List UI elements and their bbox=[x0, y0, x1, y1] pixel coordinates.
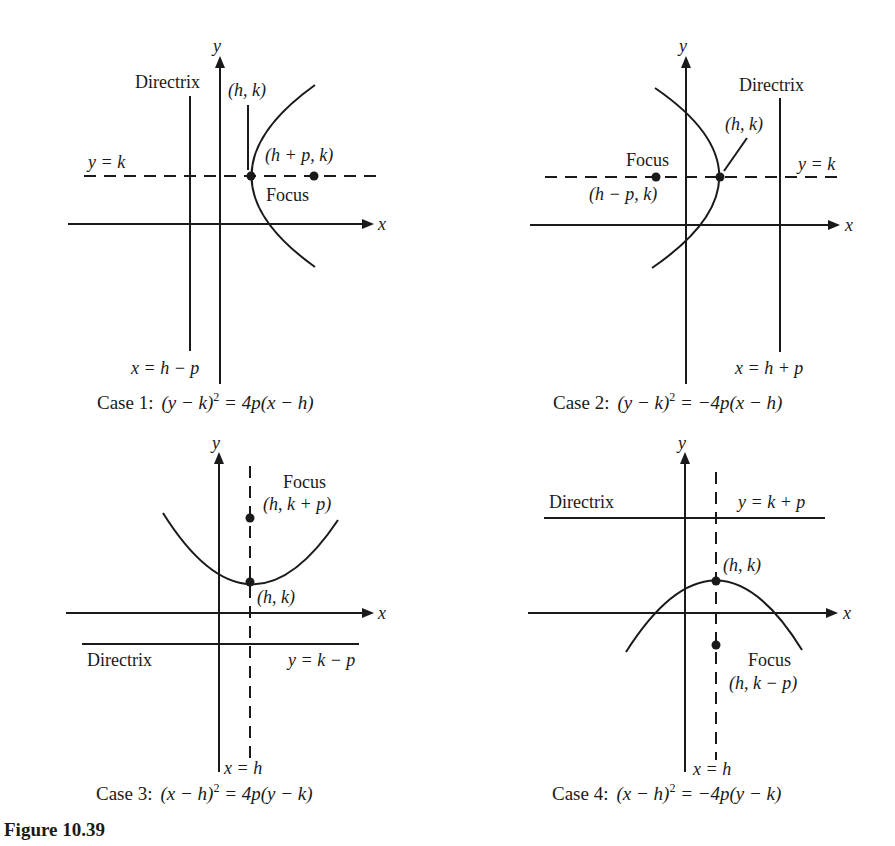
vertex-point bbox=[716, 173, 725, 182]
vertex-label: (h, k) bbox=[257, 587, 295, 608]
focus-label: Focus bbox=[283, 472, 326, 492]
vertex-pointer bbox=[724, 138, 747, 171]
y-axis-label: y bbox=[211, 36, 221, 56]
x-axis-label: x bbox=[377, 603, 386, 623]
x-axis-label: x bbox=[842, 603, 851, 623]
focus-point bbox=[652, 173, 661, 182]
case-4-panel: x y x = h Directrix y = k + p (h, k) Foc… bbox=[528, 433, 851, 805]
focus-point bbox=[246, 514, 255, 523]
focus-label: Focus bbox=[626, 150, 669, 170]
case-2-caption: Case 2:(y − k)2 = −4p(x − h) bbox=[553, 390, 782, 414]
directrix-equation: y = k − p bbox=[286, 650, 355, 670]
focus-label: Focus bbox=[266, 185, 309, 205]
vertex-label: (h, k) bbox=[723, 555, 761, 576]
directrix-label: Directrix bbox=[135, 72, 200, 92]
case-3-panel: x y x = h Directrix y = k − p Focus (h, … bbox=[66, 433, 386, 805]
x-axis-label: x bbox=[377, 214, 386, 234]
directrix-equation: y = k + p bbox=[736, 492, 805, 512]
directrix-equation: x = h − p bbox=[130, 358, 199, 378]
vertex-point bbox=[247, 172, 256, 181]
case-2-panel: x y Directrix x = h + p y = k (h, k) Foc… bbox=[530, 36, 853, 414]
vertex-point bbox=[246, 578, 255, 587]
y-axis-label: y bbox=[210, 433, 220, 453]
directrix-equation: x = h + p bbox=[734, 358, 803, 378]
vertex-label: (h, k) bbox=[228, 80, 266, 101]
vertex-point bbox=[712, 577, 721, 586]
case-3-caption: Case 3:(x − h)2 = 4p(y − k) bbox=[96, 781, 313, 805]
figure-label: Figure 10.39 bbox=[4, 819, 105, 840]
focus-point bbox=[712, 641, 721, 650]
focus-coordinate: (h, k + p) bbox=[263, 494, 331, 515]
y-axis-label: y bbox=[676, 433, 686, 453]
vertex-label: (h, k) bbox=[725, 114, 763, 135]
directrix-label: Directrix bbox=[549, 492, 614, 512]
axis-equation: y = k bbox=[796, 154, 836, 174]
axis-equation: x = h bbox=[223, 758, 262, 778]
directrix-label: Directrix bbox=[739, 75, 804, 95]
case-1-caption: Case 1:(y − k)2 = 4p(x − h) bbox=[97, 390, 314, 414]
focus-coordinate: (h, k − p) bbox=[729, 673, 797, 694]
axis-equation: y = k bbox=[86, 152, 126, 172]
focus-coordinate: (h − p, k) bbox=[589, 184, 657, 205]
case-1-panel: x y Directrix x = h − p y = k (h, k) (h … bbox=[68, 36, 386, 414]
focus-label: Focus bbox=[748, 650, 791, 670]
focus-point bbox=[310, 172, 319, 181]
directrix-label: Directrix bbox=[87, 650, 152, 670]
case-4-caption: Case 4:(x − h)2 = −4p(y − k) bbox=[552, 781, 781, 805]
x-axis-label: x bbox=[844, 215, 853, 235]
y-axis-label: y bbox=[677, 36, 687, 56]
focus-coordinate: (h + p, k) bbox=[265, 145, 333, 166]
axis-equation: x = h bbox=[692, 759, 731, 779]
parabola-cases-figure: x y Directrix x = h − p y = k (h, k) (h … bbox=[0, 0, 895, 846]
